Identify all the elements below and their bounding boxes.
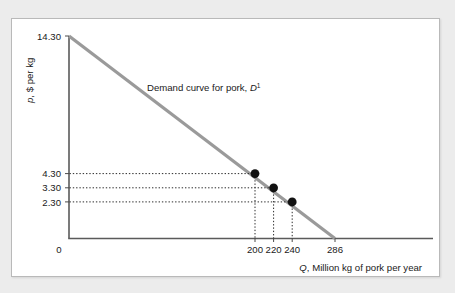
figure-panel: 14.30 4.30 3.30 2.30 200 220 240 286 0 p… [11, 18, 440, 277]
y-axis-title-rest: , $ per kg [24, 58, 35, 98]
demand-curve-label-superscript: 1 [257, 82, 261, 89]
origin-label: 0 [56, 244, 61, 255]
y-tick-label-330: 3.30 [42, 182, 61, 193]
demand-curve-label-text: Demand curve for pork, [147, 82, 250, 93]
x-tick-label-200: 200 [247, 244, 263, 255]
y-tick-label-430: 4.30 [42, 168, 61, 179]
x-tick-label-220: 220 [266, 244, 282, 255]
data-point-240-230[interactable] [288, 198, 297, 207]
figure-root: 14.30 4.30 3.30 2.30 200 220 240 286 0 p… [0, 0, 455, 293]
demand-curve-label: Demand curve for pork, D1 [147, 82, 261, 94]
demand-curve-chart: 14.30 4.30 3.30 2.30 200 220 240 286 0 p… [12, 19, 441, 278]
y-axis-title: p, $ per kg [24, 58, 35, 104]
svg-text:p, $ per kg: p, $ per kg [24, 58, 35, 104]
data-point-200-430[interactable] [251, 169, 260, 178]
x-tick-label-240: 240 [284, 244, 300, 255]
demand-curve-label-symbol: D [250, 82, 257, 93]
y-tick-label-1430: 14.30 [37, 31, 61, 42]
data-point-220-330[interactable] [269, 183, 278, 192]
y-tick-label-230: 2.30 [42, 197, 61, 208]
x-tick-label-286: 286 [327, 244, 343, 255]
x-axis-title-rest: , Million kg of pork per year [307, 262, 423, 273]
x-axis-title: Q, Million kg of pork per year [299, 262, 422, 273]
demand-curve-line [69, 36, 335, 239]
